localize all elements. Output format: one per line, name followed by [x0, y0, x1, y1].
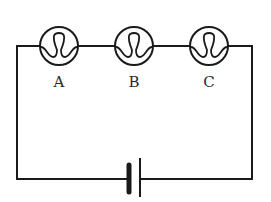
- bulb-b: B: [115, 27, 153, 91]
- circuit-diagram: A B C: [0, 0, 271, 202]
- left-wire: [17, 45, 129, 179]
- bulb-a: A: [40, 27, 78, 91]
- bulb-c: C: [190, 27, 228, 91]
- right-wire: [140, 45, 252, 179]
- battery-icon: [129, 158, 140, 197]
- bulb-a-label: A: [53, 73, 65, 91]
- bulb-c-label: C: [203, 73, 214, 91]
- bulb-b-label: B: [128, 73, 139, 91]
